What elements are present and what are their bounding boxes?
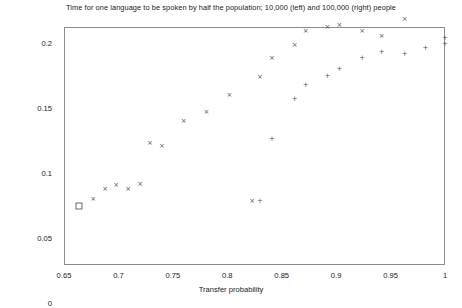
cross-x-icon: × (292, 42, 298, 49)
cross-x-icon: × (159, 143, 165, 150)
x-axis-tick-label: 0.75 (151, 271, 195, 280)
cross-x-icon: × (113, 181, 119, 188)
cross-x-icon: × (379, 33, 385, 40)
plus-icon: + (422, 44, 428, 51)
plus-icon: + (257, 198, 263, 205)
y-axis-tick-label: 0.1 (41, 169, 52, 178)
cross-x-icon: × (137, 180, 143, 187)
cross-x-icon: × (269, 55, 275, 62)
cross-x-icon: × (336, 21, 342, 28)
plus-icon: + (269, 135, 275, 142)
cross-x-icon: × (125, 185, 131, 192)
cross-x-icon: × (249, 198, 255, 205)
x-axis-tick-label: 0.8 (205, 271, 249, 280)
chart-title: Time for one language to be spoken by ha… (0, 3, 462, 12)
cross-x-icon: × (204, 108, 210, 115)
x-axis-tick-label: 0.7 (96, 271, 140, 280)
plus-icon: + (336, 66, 342, 73)
plus-icon: + (402, 50, 408, 57)
cross-x-icon: × (324, 24, 330, 31)
x-axis-label: Transfer probability (0, 285, 462, 294)
plus-icon: + (442, 40, 448, 47)
cross-x-icon: × (257, 73, 263, 80)
x-axis-tick-label: 0.65 (42, 271, 86, 280)
plus-icon: + (303, 82, 309, 89)
x-axis-tick-label: 0.9 (314, 271, 358, 280)
cross-x-icon: × (402, 16, 408, 23)
x-axis-tick-label: 1 (423, 271, 462, 280)
y-axis-tick-label: 0.2 (41, 39, 52, 48)
cross-x-icon: × (102, 185, 108, 192)
open-square-icon (76, 202, 83, 209)
plus-icon: + (442, 34, 448, 41)
cross-x-icon: × (303, 27, 309, 34)
cross-x-icon: × (181, 118, 187, 125)
x-axis-tick-label: 0.85 (260, 271, 304, 280)
plus-icon: + (359, 55, 365, 62)
y-axis-tick-label: 0.05 (37, 234, 52, 243)
plus-icon: + (324, 72, 330, 79)
y-axis-tick-label: 0 (48, 299, 52, 308)
cross-x-icon: × (226, 92, 232, 99)
plot-area: ××××××××××××××××××××++++++++++++ (64, 27, 445, 265)
plus-icon: + (379, 49, 385, 56)
cross-x-icon: × (147, 140, 153, 147)
cross-x-icon: × (90, 196, 96, 203)
y-axis-tick-label: 0.15 (37, 104, 52, 113)
plus-icon: + (292, 95, 298, 102)
cross-x-icon: × (359, 27, 365, 34)
x-axis-tick-label: 0.95 (369, 271, 413, 280)
